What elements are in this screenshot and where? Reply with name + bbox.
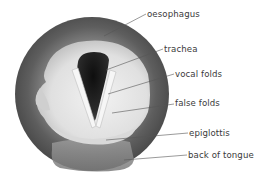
larynx-diagram: oesophagus trachea vocal folds false fol…: [0, 0, 266, 179]
label-vocal-folds: vocal folds: [175, 70, 222, 79]
label-false-folds: false folds: [175, 99, 220, 108]
label-oesophagus: oesophagus: [147, 10, 200, 19]
label-epiglottis: epiglottis: [189, 129, 230, 138]
label-back-of-tongue: back of tongue: [188, 151, 254, 160]
label-trachea: trachea: [164, 45, 198, 54]
